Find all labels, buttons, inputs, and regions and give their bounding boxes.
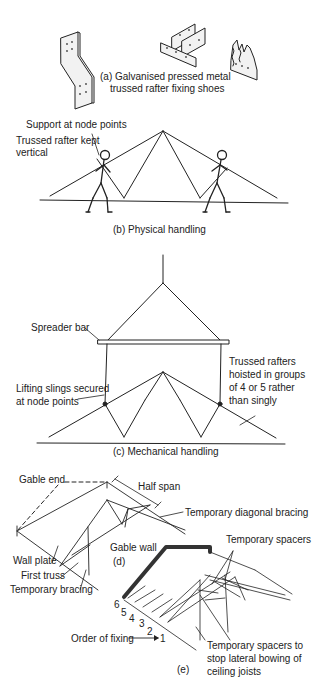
- label-hoisted-1: Trussed rafters: [229, 356, 296, 367]
- fixing-shoe-hanger: [231, 40, 257, 80]
- label-gable-wall: Gable wall: [110, 542, 157, 553]
- caption-e: (e): [177, 664, 189, 675]
- leader-hoisted: [240, 416, 255, 425]
- fixing-number-3: 3: [139, 619, 145, 629]
- worker-left-figure: [86, 151, 112, 213]
- fixing-number-4: 4: [129, 614, 135, 624]
- label-rafter-vertical-1: Trussed rafter kept: [16, 135, 100, 146]
- leader-slings: [78, 395, 104, 399]
- caption-c: (c) Mechanical handling: [113, 446, 219, 457]
- label-hoisted-3: of 4 or 5 rather: [229, 382, 295, 393]
- label-spacers-bowing-2: stop lateral bowing of: [207, 653, 302, 664]
- label-gable-end: Gable end: [19, 474, 65, 485]
- crane-hook-and-slings: [107, 255, 221, 341]
- label-support-nodes: Support at node points: [26, 119, 127, 130]
- label-temp-spacers: Temporary spacers: [226, 534, 311, 545]
- label-slings-1: Lifting slings secured: [16, 383, 109, 394]
- order-arrowhead: [154, 635, 159, 641]
- label-hoisted-4: than singly: [229, 395, 277, 406]
- label-slings-2: at node points: [16, 396, 79, 407]
- label-first-truss: First truss: [21, 570, 65, 581]
- caption-a-line1: (a) Galvanised pressed metal: [100, 71, 231, 82]
- label-order-of-fixing: Order of fixing: [71, 633, 134, 644]
- label-diagonal-bracing: Temporary diagonal bracing: [185, 507, 308, 518]
- label-hoisted-2: hoisted in groups: [229, 369, 305, 380]
- fixing-number-6: 6: [114, 600, 120, 610]
- label-spacers-bowing-3: ceiling joists: [207, 666, 261, 677]
- fixing-number-5: 5: [121, 608, 127, 618]
- caption-a-line2: trussed rafter fixing shoes: [110, 83, 225, 94]
- label-rafter-vertical-2: vertical: [16, 147, 48, 158]
- label-spreader-bar: Spreader bar: [31, 322, 89, 333]
- leader-diagonal-bracing: [160, 512, 183, 517]
- caption-d: (d): [113, 556, 125, 567]
- caption-b: (b) Physical handling: [113, 224, 206, 235]
- worker-right-figure: [203, 151, 230, 213]
- fixing-number-2: 2: [147, 627, 153, 637]
- label-temp-bracing: Temporary bracing: [10, 584, 93, 595]
- fixing-shoe-double-bracket: [161, 24, 205, 67]
- label-spacers-bowing-1: Temporary spacers to: [207, 640, 303, 651]
- label-half-span: Half span: [138, 481, 180, 492]
- leader-spacers-bowing: [196, 627, 205, 640]
- label-wall-plate: Wall plate: [13, 555, 57, 566]
- fixing-number-1: 1: [160, 634, 166, 644]
- fixing-shoe-z-plate: [61, 32, 94, 109]
- spreader-bar: [98, 340, 229, 344]
